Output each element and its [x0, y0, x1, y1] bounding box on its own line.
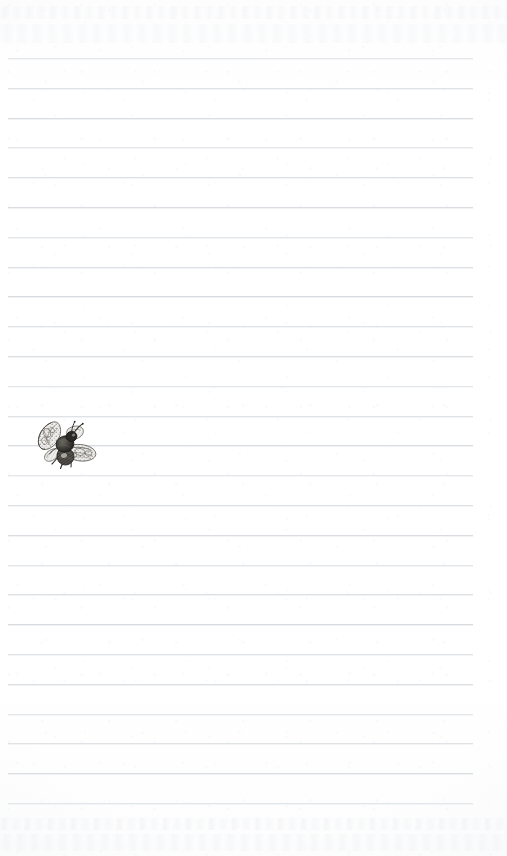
journal-page — [0, 0, 507, 856]
bee-illustration — [31, 419, 101, 477]
